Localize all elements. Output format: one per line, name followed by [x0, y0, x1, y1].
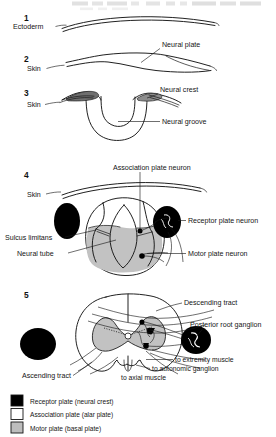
- stage-4-group: 4: [5, 164, 258, 276]
- motor-neuron-dot: [139, 253, 145, 259]
- stage-2-group: 2 Skin Neural plate: [24, 41, 217, 74]
- neural-tube-development-figure: 1 Ectoderm 2 Skin Neural plate 3: [0, 0, 276, 437]
- stage-4-number: 4: [24, 170, 29, 180]
- page-header-faded: [72, 2, 261, 11]
- stage-5-group: 5: [20, 290, 261, 381]
- label-receptor-plate-neuron: Receptor plate neuron: [188, 217, 258, 225]
- label-neural-plate: Neural plate: [162, 41, 200, 49]
- label-sulcus-limitans: Sulcus limitans: [5, 234, 53, 242]
- neuron-soma-dorsal: [139, 319, 144, 324]
- stage-3-number: 3: [24, 88, 29, 98]
- legend-swatch-association-plate: [11, 409, 23, 420]
- legend-label-motor-plate: Motor plate (basal plate): [30, 425, 101, 433]
- legend-swatch-receptor-plate: [11, 395, 23, 406]
- label-ascending-tract: Ascending tract: [22, 372, 71, 380]
- stage-1-group: 1 Ectoderm: [13, 13, 219, 32]
- label-skin-3: Skin: [27, 101, 41, 109]
- label-ectoderm: Ectoderm: [13, 23, 43, 31]
- legend-label-receptor-plate: Receptor plate (neural crest): [30, 398, 114, 406]
- label-posterior-root-ganglion: Posterior root ganglion: [190, 321, 261, 329]
- label-to-extremity-muscle: to extremity muscle: [175, 356, 234, 364]
- label-skin-4: Skin: [27, 191, 41, 199]
- central-canal: [125, 333, 131, 339]
- legend: Receptor plate (neural crest) Associatio…: [11, 395, 114, 433]
- neural-crest-mass-left: [54, 203, 80, 239]
- label-skin-2: Skin: [27, 65, 41, 73]
- stage-5-number: 5: [24, 290, 29, 300]
- stage-2-number: 2: [24, 54, 29, 64]
- stage-1-number: 1: [24, 13, 29, 23]
- label-motor-plate-neuron: Motor plate neuron: [188, 250, 248, 258]
- label-to-autonomic-ganglion: to autonomic ganglion: [152, 365, 219, 373]
- label-association-plate-neuron: Association plate neuron: [113, 164, 191, 172]
- legend-swatch-motor-plate: [11, 422, 23, 433]
- label-to-axial-muscle: to axial muscle: [121, 374, 166, 381]
- neural-crest-remnant: [20, 328, 56, 360]
- label-neural-crest: Neural crest: [160, 86, 198, 94]
- stage-3-group: 3 Skin Neural crest Neural groove: [24, 86, 207, 140]
- label-neural-tube: Neural tube: [17, 250, 54, 258]
- label-descending-tract: Descending tract: [184, 299, 237, 307]
- receptor-plate-ganglion: [153, 206, 181, 238]
- label-neural-groove: Neural groove: [162, 118, 207, 126]
- legend-label-association-plate: Association plate (alar plate): [30, 411, 113, 419]
